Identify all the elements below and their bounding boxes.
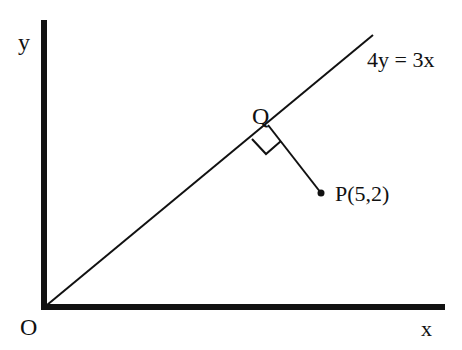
point-p-label: P(5,2) [335, 183, 389, 205]
line-equation-label: 4y = 3x [367, 49, 434, 71]
perpendicular-pq [268, 125, 321, 193]
x-axis-label: x [421, 318, 432, 340]
point-p-dot [318, 190, 325, 197]
line-4y-3x [47, 35, 373, 305]
origin-label: O [20, 315, 37, 339]
right-angle-marker [252, 139, 281, 154]
y-axis-label: y [18, 30, 30, 54]
foot-point-label: Q [252, 104, 269, 128]
